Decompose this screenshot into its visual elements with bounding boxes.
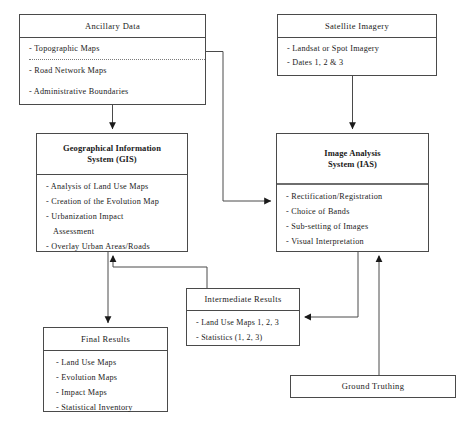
gis-title: Geographical Information System (GIS) [37, 134, 187, 174]
list-item: - Sub-setting of Images [286, 220, 428, 235]
list-item: - Rectification/Registration [286, 190, 428, 205]
list-item: - Urbanization Impact [46, 210, 187, 225]
list-item: - Topographic Maps [29, 38, 205, 59]
gis-body: - Analysis of Land Use Maps - Creation o… [37, 175, 187, 258]
list-item: - Analysis of Land Use Maps [46, 180, 187, 195]
ground-truthing-title: Ground Truthing [291, 376, 455, 397]
list-item: - Visual Interpretation [286, 235, 428, 250]
connector-intermediate-to-gis [113, 256, 207, 288]
list-item: - Evolution Maps [56, 370, 167, 385]
list-item: - Statistical Inventory [56, 400, 167, 415]
ias-title-line1: Image Analysis [324, 148, 380, 158]
list-item-continuation: Assessment [46, 225, 187, 240]
final-results-body: - Land Use Maps - Evolution Maps - Impac… [44, 351, 167, 419]
list-item: - Landsat or Spot Imagery [287, 42, 436, 56]
final-results-title: Final Results [44, 328, 167, 350]
methodology-flow-diagram: Ancillary Data - Topographic Maps - Road… [0, 0, 476, 421]
list-item: - Creation of the Evolution Map [46, 195, 187, 210]
box-ias[interactable]: Image Analysis System (IAS) - Rectificat… [276, 133, 429, 252]
ias-body: - Rectification/Registration - Choice of… [277, 185, 428, 254]
list-item: - Choice of Bands [286, 205, 428, 220]
box-ground-truthing[interactable]: Ground Truthing [290, 375, 456, 398]
box-intermediate-results[interactable]: Intermediate Results - Land Use Maps 1, … [186, 288, 300, 346]
satellite-imagery-body: - Landsat or Spot Imagery - Dates 1, 2 &… [278, 38, 436, 75]
ias-title: Image Analysis System (IAS) [277, 134, 428, 183]
box-ancillary-data[interactable]: Ancillary Data - Topographic Maps - Road… [19, 14, 206, 105]
connector-ias-to-intermediate [305, 252, 358, 317]
ancillary-data-title: Ancillary Data [20, 15, 205, 37]
ancillary-data-body: - Topographic Maps - Road Network Maps -… [20, 38, 205, 106]
list-item: - Land Use Maps [56, 355, 167, 370]
list-item: - Overlay Urban Areas/Roads [46, 240, 187, 255]
list-item: - Impact Maps [56, 385, 167, 400]
list-item: - Statistics (1, 2, 3) [196, 330, 299, 345]
list-item: - Road Network Maps [29, 60, 205, 81]
list-item: - Land Use Maps 1, 2, 3 [196, 315, 299, 330]
list-item: - Dates 1, 2 & 3 [287, 56, 436, 70]
box-satellite-imagery[interactable]: Satellite Imagery - Landsat or Spot Imag… [277, 14, 437, 76]
list-item: - Administrative Boundaries [29, 81, 205, 102]
connector-ancillary-to-ias [206, 52, 271, 202]
intermediate-results-title: Intermediate Results [187, 289, 299, 310]
gis-title-line1: Geographical Information [63, 143, 161, 153]
ias-title-line2: System (IAS) [328, 159, 377, 169]
satellite-imagery-title: Satellite Imagery [278, 15, 436, 37]
gis-title-line2: System (GIS) [87, 154, 137, 164]
intermediate-results-body: - Land Use Maps 1, 2, 3 - Statistics (1,… [187, 311, 299, 348]
box-gis[interactable]: Geographical Information System (GIS) - … [36, 133, 188, 252]
box-final-results[interactable]: Final Results - Land Use Maps - Evolutio… [43, 327, 168, 412]
